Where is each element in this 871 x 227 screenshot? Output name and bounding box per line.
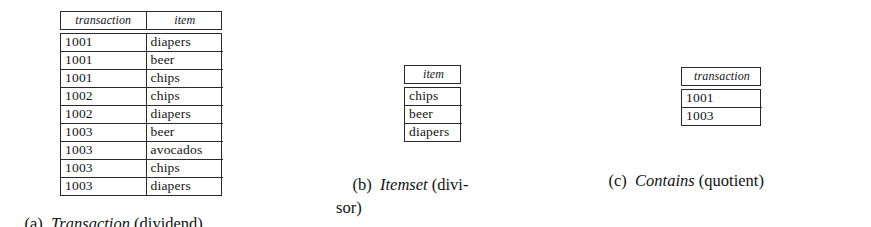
- cell-item: diapers: [146, 34, 223, 52]
- cell-transaction: 1001: [61, 51, 146, 69]
- table-header-row: transaction item: [61, 12, 223, 29]
- relation-name-a: Transaction: [51, 214, 130, 227]
- subfigure-label-a: (a): [25, 214, 43, 227]
- subfigure-label-b: (b): [353, 175, 372, 194]
- cell-transaction: 1003: [682, 107, 762, 125]
- table-row: 1001 beer: [61, 51, 223, 69]
- table-row: 1001: [682, 90, 762, 108]
- table-header-row: transaction: [682, 68, 762, 85]
- table-body-block: chips beer diapers: [404, 87, 461, 142]
- cell-transaction: 1001: [61, 69, 146, 87]
- cell-item: beer: [146, 51, 223, 69]
- table-header-row: item: [405, 66, 462, 83]
- cell-item: diapers: [146, 105, 223, 123]
- table-row: 1002 chips: [61, 87, 223, 105]
- relation-table-transaction: transaction item 1001 diapers: [60, 11, 222, 196]
- relation-table-contains: transaction 1001 1003: [681, 67, 761, 126]
- figure-container: transaction item 1001 diapers: [0, 0, 871, 227]
- relation-table-itemset: item chips beer: [404, 65, 461, 142]
- table-row: 1001 diapers: [61, 34, 223, 52]
- relation-role-b: (divi-: [432, 175, 469, 194]
- column-header-transaction: transaction: [682, 68, 762, 85]
- cell-item: chips: [146, 159, 223, 177]
- table-row: chips: [405, 88, 462, 106]
- cell-transaction: 1003: [61, 141, 146, 159]
- table-row: 1001 chips: [61, 69, 223, 87]
- cell-transaction: 1001: [61, 34, 146, 52]
- subfigure-b-itemset: item chips beer: [404, 65, 461, 142]
- subfigure-caption-a: (a) Transaction (dividend): [8, 189, 203, 227]
- table-header-block: transaction: [681, 67, 761, 86]
- subfigure-a-transaction: transaction item 1001 diapers: [60, 11, 222, 196]
- cell-item: beer: [146, 123, 223, 141]
- cell-item: chips: [405, 88, 462, 106]
- cell-transaction: 1001: [682, 90, 762, 108]
- relation-name-b: Itemset: [380, 175, 428, 194]
- subfigure-caption-b: (b) Itemset (divi-sor): [336, 150, 526, 227]
- cell-transaction: 1002: [61, 105, 146, 123]
- table-row: 1003 chips: [61, 159, 223, 177]
- table-row: 1003: [682, 107, 762, 125]
- table-row: 1002 diapers: [61, 105, 223, 123]
- table-header-block: transaction item: [60, 11, 222, 30]
- table-row: diapers: [405, 123, 462, 141]
- relation-role-b-continuation: sor): [336, 196, 526, 219]
- column-header-item: item: [405, 66, 462, 83]
- column-header-transaction: transaction: [61, 12, 146, 29]
- table-row: 1003 beer: [61, 123, 223, 141]
- cell-item: chips: [146, 69, 223, 87]
- cell-item: chips: [146, 87, 223, 105]
- cell-item: diapers: [405, 123, 462, 141]
- table-row: beer: [405, 105, 462, 123]
- table-body-block: 1001 1003: [681, 89, 761, 126]
- subfigure-label-c: (c): [609, 171, 627, 190]
- cell-transaction: 1003: [61, 159, 146, 177]
- cell-item: beer: [405, 105, 462, 123]
- subfigure-caption-c: (c) Contains (quotient): [592, 146, 764, 215]
- table-header-block: item: [404, 65, 461, 84]
- table-row: 1003 avocados: [61, 141, 223, 159]
- column-header-item: item: [146, 12, 223, 29]
- cell-transaction: 1002: [61, 87, 146, 105]
- table-body-block: 1001 diapers 1001 beer 1001 chips 1002: [60, 33, 222, 196]
- cell-transaction: 1003: [61, 123, 146, 141]
- cell-item: avocados: [146, 141, 223, 159]
- relation-role-a: (dividend): [134, 214, 203, 227]
- relation-name-c: Contains: [635, 171, 695, 190]
- subfigure-c-contains: transaction 1001 1003: [681, 67, 761, 126]
- relation-role-c: (quotient): [699, 171, 764, 190]
